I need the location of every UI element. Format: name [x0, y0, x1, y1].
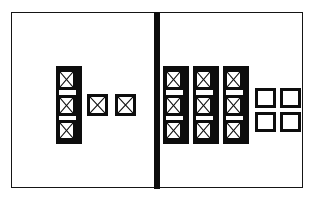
empty-square-icon — [280, 88, 301, 108]
bracket-cells — [194, 69, 215, 141]
crossed-square-icon — [194, 69, 213, 90]
empty-square-icon — [255, 88, 276, 108]
bracket-cells — [57, 69, 78, 141]
bracket-group-right-2 — [193, 66, 219, 144]
empty-square-grid — [255, 88, 301, 132]
crossed-square-icon — [224, 69, 243, 90]
crossed-square-icon — [194, 120, 213, 141]
crossed-square-icon — [115, 94, 136, 116]
crossed-square-icon — [57, 95, 76, 116]
panel-left — [11, 12, 154, 188]
crossed-square-icon — [194, 95, 213, 116]
panel-right — [160, 12, 303, 188]
bracket-cells — [224, 69, 245, 141]
bracket-group-left-1 — [56, 66, 82, 144]
crossed-square-icon — [164, 69, 183, 90]
crossed-square-icon — [164, 95, 183, 116]
crossed-square-icon — [57, 120, 76, 141]
vertical-divider — [154, 12, 160, 189]
bracket-group-right-1 — [163, 66, 189, 144]
crossed-square-icon — [164, 120, 183, 141]
bracket-group-right-3 — [223, 66, 249, 144]
crossed-square-icon — [87, 94, 108, 116]
figure-canvas — [0, 0, 315, 201]
free-crossed-square-2 — [115, 94, 136, 116]
crossed-square-icon — [224, 120, 243, 141]
empty-square-icon — [255, 112, 276, 132]
empty-square-icon — [280, 112, 301, 132]
crossed-square-icon — [224, 95, 243, 116]
bracket-cells — [164, 69, 185, 141]
free-crossed-square-1 — [87, 94, 108, 116]
crossed-square-icon — [57, 69, 76, 90]
